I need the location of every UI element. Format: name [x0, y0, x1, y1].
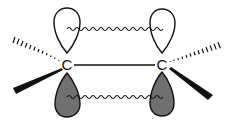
left-hashed-bond [13, 37, 59, 61]
left-carbon-label: C [62, 56, 73, 73]
left-wedge-bond [13, 68, 63, 94]
top-wavy-overlap-line [67, 28, 163, 31]
right-wedge-bond [169, 67, 213, 100]
bottom-wavy-overlap-line [67, 96, 163, 99]
top-right-orbital-lobe [150, 9, 175, 53]
right-hashed-bond [170, 42, 220, 62]
pi-bond-diagram: C C [0, 0, 237, 126]
bottom-right-orbital-lobe [150, 72, 174, 116]
right-carbon-label: C [157, 56, 168, 73]
top-left-orbital-lobe [54, 8, 80, 53]
bottom-left-orbital-lobe [55, 73, 80, 117]
diagram-svg: C C [0, 0, 237, 126]
